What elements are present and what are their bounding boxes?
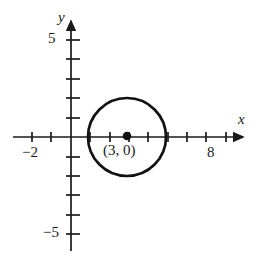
y-axis [66, 21, 80, 251]
x-axis-label: x [238, 112, 245, 127]
x-tick-label-8: 8 [207, 145, 215, 160]
y-axis-label: y [58, 10, 65, 25]
x-tick-label-minus-2: −2 [22, 145, 38, 160]
plot-canvas [0, 0, 260, 258]
y-tick-label-5: 5 [48, 31, 56, 46]
y-tick-label-minus-5: −5 [43, 225, 59, 240]
coordinate-plane-figure: y x 5 −5 −2 8 (3, 0) [0, 0, 260, 258]
center-point-label: (3, 0) [103, 143, 136, 158]
center-point-marker [123, 132, 132, 141]
